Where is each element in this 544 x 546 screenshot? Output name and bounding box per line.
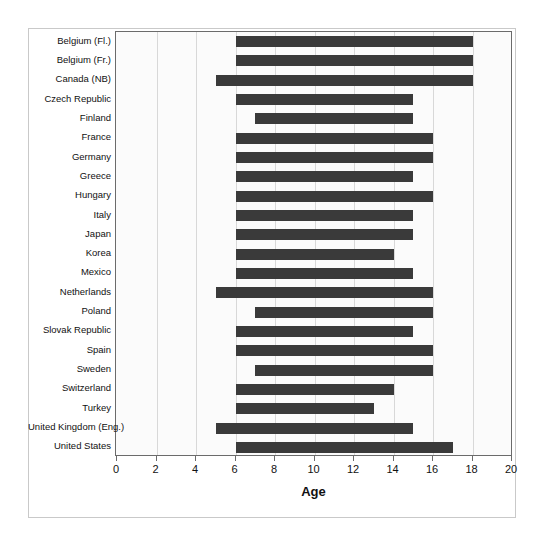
x-axis-tick-label: 14 [386, 463, 398, 475]
bar [236, 326, 414, 337]
bar [236, 152, 434, 163]
x-axis-tick-label: 18 [465, 463, 477, 475]
y-axis-tick-label: Italy [28, 210, 111, 220]
bar [236, 171, 414, 182]
bar [236, 229, 414, 240]
x-axis-tick-mark [432, 456, 433, 461]
bar [236, 36, 473, 47]
bar [216, 423, 414, 434]
y-axis-tick-label: Netherlands [28, 287, 111, 297]
x-axis-tick-mark [393, 456, 394, 461]
y-axis-tick-label: Hungary [28, 190, 111, 200]
y-axis-tick-label: France [28, 132, 111, 142]
bar [236, 345, 434, 356]
bar [236, 210, 414, 221]
y-axis-tick-label: Sweden [28, 364, 111, 374]
x-axis-tick-mark [195, 456, 196, 461]
x-axis-title: Age [115, 484, 512, 499]
bars-layer [116, 32, 511, 455]
x-axis-tick-mark [511, 456, 512, 461]
bar [236, 191, 434, 202]
y-axis-tick-label: Switzerland [28, 383, 111, 393]
bar [236, 94, 414, 105]
x-axis-tick-label: 4 [192, 463, 198, 475]
y-axis-tick-label: United States [28, 441, 111, 451]
plot-area [115, 31, 512, 456]
bar [236, 55, 473, 66]
x-axis-tick-mark [314, 456, 315, 461]
y-axis-tick-label: Slovak Republic [28, 325, 111, 335]
bar [236, 133, 434, 144]
y-axis-tick-label: Turkey [28, 403, 111, 413]
y-axis-tick-label: Finland [28, 113, 111, 123]
y-axis-tick-label: Canada (NB) [28, 74, 111, 84]
y-axis-tick-label: Mexico [28, 267, 111, 277]
x-axis-tick-label: 10 [307, 463, 319, 475]
y-axis-tick-label: Greece [28, 171, 111, 181]
x-axis-tick-mark [116, 456, 117, 461]
x-axis-tick-label: 0 [113, 463, 119, 475]
x-axis-tick-label: 6 [231, 463, 237, 475]
x-axis-tick-label: 12 [347, 463, 359, 475]
x-axis-tick-mark [235, 456, 236, 461]
bar [236, 384, 394, 395]
x-axis-tick-label: 20 [505, 463, 517, 475]
bar [255, 307, 433, 318]
y-axis-category-labels: Belgium (Fl.)Belgium (Fr.)Canada (NB)Cze… [28, 31, 111, 456]
y-axis-tick-label: Belgium (Fl.) [28, 36, 111, 46]
bar [236, 268, 414, 279]
x-axis-tick-mark [472, 456, 473, 461]
x-axis-tick-label: 16 [426, 463, 438, 475]
x-axis-tick-mark [274, 456, 275, 461]
y-axis-tick-label: Japan [28, 229, 111, 239]
y-axis-tick-label: Belgium (Fr.) [28, 55, 111, 65]
bar [236, 403, 374, 414]
bar [236, 249, 394, 260]
x-axis-tick-label: 2 [152, 463, 158, 475]
x-axis-tick-mark [353, 456, 354, 461]
figure: Belgium (Fl.)Belgium (Fr.)Canada (NB)Cze… [0, 0, 544, 546]
y-axis-tick-label: Poland [28, 306, 111, 316]
bar [255, 113, 413, 124]
bar [216, 287, 433, 298]
x-axis-tick-mark [156, 456, 157, 461]
x-axis-tick-label: 8 [271, 463, 277, 475]
y-axis-tick-label: Germany [28, 152, 111, 162]
y-axis-tick-label: United Kingdom (Eng.) [28, 422, 111, 432]
bar [255, 365, 433, 376]
y-axis-tick-label: Czech Republic [28, 94, 111, 104]
y-axis-tick-label: Spain [28, 345, 111, 355]
y-axis-tick-label: Korea [28, 248, 111, 258]
bar [236, 442, 453, 453]
bar [216, 75, 473, 86]
